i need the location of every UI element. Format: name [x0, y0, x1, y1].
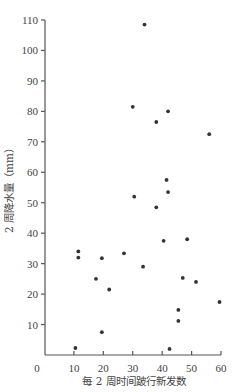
- x-axis-title: 每 2 周时间跛行新发数: [82, 375, 186, 387]
- x-tick-label: 30: [127, 362, 139, 374]
- data-points: [73, 23, 221, 351]
- y-tick-label: 70: [27, 136, 39, 148]
- data-point: [100, 330, 104, 334]
- y-tick-label: 80: [27, 105, 39, 117]
- scatter-chart: 102030405060708090100110 102030405060 0 …: [0, 0, 237, 392]
- data-point: [141, 265, 145, 269]
- data-point: [107, 288, 111, 292]
- x-tick-label: 10: [68, 362, 80, 374]
- data-point: [131, 105, 135, 109]
- axes: [45, 20, 221, 355]
- y-tick-label: 40: [27, 227, 39, 239]
- data-point: [166, 109, 170, 113]
- data-point: [168, 347, 172, 351]
- y-axis-title: 2 周降水量（mm）: [3, 143, 15, 233]
- data-point: [194, 280, 198, 284]
- x-tick-label: 50: [186, 362, 198, 374]
- x-tick-label: 40: [157, 362, 169, 374]
- data-point: [122, 251, 126, 255]
- y-tick-label: 100: [22, 44, 39, 56]
- origin-label: 0: [34, 362, 40, 374]
- y-tick-label: 30: [27, 258, 39, 270]
- data-point: [132, 195, 136, 199]
- y-tick-label: 90: [27, 75, 39, 87]
- y-axis-ticks: 102030405060708090100110: [22, 14, 46, 331]
- data-point: [162, 239, 166, 243]
- data-point: [176, 308, 180, 312]
- data-point: [94, 277, 98, 281]
- data-point: [181, 276, 185, 280]
- y-tick-label: 110: [22, 14, 39, 26]
- data-point: [185, 237, 189, 241]
- data-point: [207, 132, 211, 136]
- data-point: [100, 256, 104, 260]
- y-tick-label: 20: [27, 288, 39, 300]
- x-tick-label: 60: [216, 362, 228, 374]
- data-point: [73, 346, 77, 350]
- data-point: [165, 178, 169, 182]
- data-point: [154, 120, 158, 124]
- y-tick-label: 50: [27, 197, 39, 209]
- data-point: [154, 205, 158, 209]
- data-point: [218, 300, 222, 304]
- y-tick-label: 10: [27, 319, 39, 331]
- data-point: [176, 319, 180, 323]
- data-point: [166, 190, 170, 194]
- y-tick-label: 60: [27, 166, 39, 178]
- data-point: [76, 250, 80, 254]
- x-tick-label: 20: [98, 362, 110, 374]
- data-point: [76, 256, 80, 260]
- data-point: [143, 23, 147, 27]
